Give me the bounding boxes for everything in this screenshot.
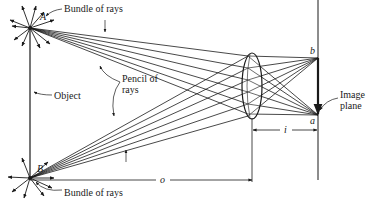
lens-ray-diagram: Bundle of rays Bundle of rays Pencil of … (0, 0, 373, 202)
label-bundle-top: Bundle of rays (64, 3, 123, 14)
label-object: Object (54, 90, 81, 101)
label-point-A: A (39, 11, 47, 22)
label-pencil-1: Pencil of (122, 73, 158, 84)
leader-bundle-top (46, 9, 62, 16)
label-point-b: b (310, 45, 315, 56)
lens (242, 53, 262, 119)
label-pencil-2: rays (122, 84, 139, 95)
leader-pencil-bottom (113, 82, 120, 116)
label-image-plane-2: plane (340, 100, 362, 111)
rays-from-b (30, 56, 318, 178)
label-bundle-bottom: Bundle of rays (64, 187, 123, 198)
label-point-a: a (310, 115, 315, 126)
label-point-B: B (37, 163, 43, 174)
ray-arrows-a (30, 28, 148, 70)
label-image-plane-1: Image (340, 89, 366, 100)
label-image-distance: i (284, 124, 287, 135)
leader-image-plane (320, 98, 338, 110)
leader-pencil-top (100, 66, 120, 82)
label-object-distance: o (160, 174, 165, 185)
leader-object (34, 92, 52, 95)
bundle-starburst-a (10, 6, 54, 48)
